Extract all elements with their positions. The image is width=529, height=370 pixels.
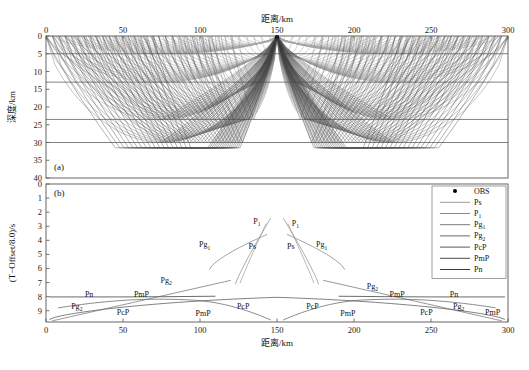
phase-label: PmP [485, 308, 501, 317]
x-tick-label: 200 [348, 25, 361, 35]
y-tick-label: 35 [34, 155, 43, 165]
phase-label: PcP [237, 302, 250, 311]
panel-b-ylabel: (T−Offset/8.0)/s [7, 223, 17, 282]
panel-a-ylabel: 深度/km [6, 91, 17, 123]
y-tick-label: 7 [38, 278, 42, 288]
phase-label: PmP [196, 309, 212, 318]
phase-label: PcP [117, 308, 130, 317]
y-tick-label: 15 [34, 84, 43, 94]
panel-b-bottom-axis: 050100150200250300距离/km [44, 319, 515, 349]
y-tick-label: 2 [38, 207, 42, 217]
phase-label: PmP [340, 309, 356, 318]
figure-svg: 050100150200250300距离/km0510152025303540深… [0, 0, 529, 370]
phase-label: PcP [420, 308, 433, 317]
y-tick-label: 10 [34, 67, 43, 77]
x-tick-label: 250 [425, 325, 438, 335]
x-tick-label: 0 [44, 25, 48, 35]
bottom-axis-title: 距离/km [261, 337, 293, 348]
panel-a-y-axis: 0510152025303540深度/km [6, 31, 50, 183]
panel-b-y-axis: 0123456789(T−Offset/8.0)/s [7, 179, 50, 316]
y-tick-label: 5 [38, 49, 42, 59]
y-tick-label: 4 [38, 235, 43, 245]
legend-label: OBS [474, 187, 490, 196]
phase-label: PmP [390, 290, 406, 299]
y-tick-label: 1 [38, 193, 42, 203]
legend: OBSPsP1Pg1Pg2PcPPmPPn [432, 186, 506, 279]
y-tick-label: 0 [38, 179, 42, 189]
phase-label: Ps [287, 242, 295, 251]
y-tick-label: 5 [38, 249, 42, 259]
y-tick-label: 30 [34, 138, 43, 148]
y-tick-label: 3 [38, 221, 42, 231]
x-tick-label: 0 [44, 325, 48, 335]
y-tick-label: 8 [38, 292, 42, 302]
legend-marker-obs-icon [453, 189, 457, 193]
legend-label: Pn [474, 265, 482, 274]
x-tick-label: 100 [194, 325, 207, 335]
x-tick-label: 300 [502, 325, 515, 335]
legend-label: PmP [474, 254, 490, 263]
y-tick-label: 0 [38, 31, 42, 41]
x-tick-label: 50 [119, 25, 128, 35]
y-tick-label: 9 [38, 306, 42, 316]
phase-label: PcP [306, 302, 319, 311]
panel-a-top-axis: 050100150200250300距离/km [44, 13, 515, 40]
phase-label: Pn [450, 290, 458, 299]
x-tick-label: 300 [502, 25, 515, 35]
x-tick-label: 100 [194, 25, 207, 35]
phase-label: Ps [249, 242, 257, 251]
x-tick-label: 150 [271, 25, 284, 35]
phase-label: PmP [134, 290, 150, 299]
x-tick-label: 50 [119, 325, 128, 335]
x-tick-label: 150 [271, 325, 284, 335]
x-tick-label: 250 [425, 25, 438, 35]
y-tick-label: 25 [34, 120, 43, 130]
legend-box [432, 186, 506, 279]
panel-a-tag: (a) [54, 162, 64, 172]
panel-b-tag: (b) [54, 188, 65, 198]
top-axis-title: 距离/km [261, 13, 293, 24]
phase-label: Pn [85, 290, 93, 299]
panel-b: 050100150200250300距离/km0123456789(T−Offs… [7, 179, 514, 348]
legend-label: PcP [474, 243, 487, 252]
x-tick-label: 200 [348, 325, 361, 335]
legend-label: Ps [474, 198, 482, 207]
seismic-raytracing-figure: 050100150200250300距离/km0510152025303540深… [0, 0, 529, 370]
panel-a: 050100150200250300距离/km0510152025303540深… [6, 13, 514, 183]
y-tick-label: 6 [38, 263, 42, 273]
y-tick-label: 20 [34, 102, 43, 112]
